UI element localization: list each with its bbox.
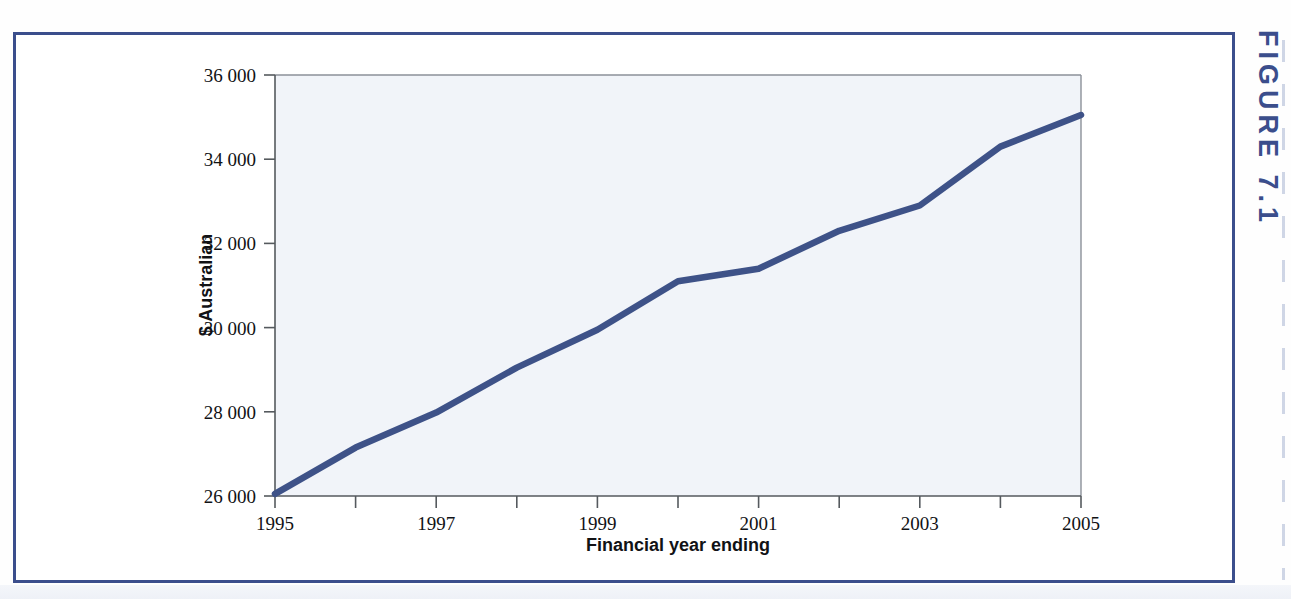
x-tick-label: 2005: [1062, 513, 1100, 534]
x-tick-label: 2001: [740, 513, 778, 534]
y-tick-label: 28 000: [204, 402, 256, 423]
figure-caption: FIGURE 7.1: [1247, 30, 1287, 330]
y-axis-title: $ Australian: [196, 234, 216, 336]
y-tick-label: 36 000: [204, 65, 256, 86]
chart-container: 26 00028 00030 00032 00034 00036 000 199…: [16, 35, 1238, 586]
line-chart: 26 00028 00030 00032 00034 00036 000 199…: [16, 35, 1238, 586]
y-axis-ticks: [264, 75, 275, 496]
figure-frame: 26 00028 00030 00032 00034 00036 000 199…: [13, 32, 1235, 583]
x-tick-label: 1999: [578, 513, 616, 534]
x-tick-label: 1997: [417, 513, 455, 534]
page-bottom-band: [0, 585, 1291, 599]
x-tick-label: 2003: [901, 513, 939, 534]
x-tick-label: 1995: [256, 513, 294, 534]
x-axis-ticks: [275, 496, 1081, 508]
x-axis-tick-labels: 199519971999200120032005: [256, 513, 1100, 534]
y-tick-label: 26 000: [204, 486, 256, 507]
figure-caption-text: FIGURE 7.1: [1252, 30, 1283, 227]
y-tick-label: 34 000: [204, 149, 256, 170]
x-axis-title: Financial year ending: [586, 535, 770, 555]
